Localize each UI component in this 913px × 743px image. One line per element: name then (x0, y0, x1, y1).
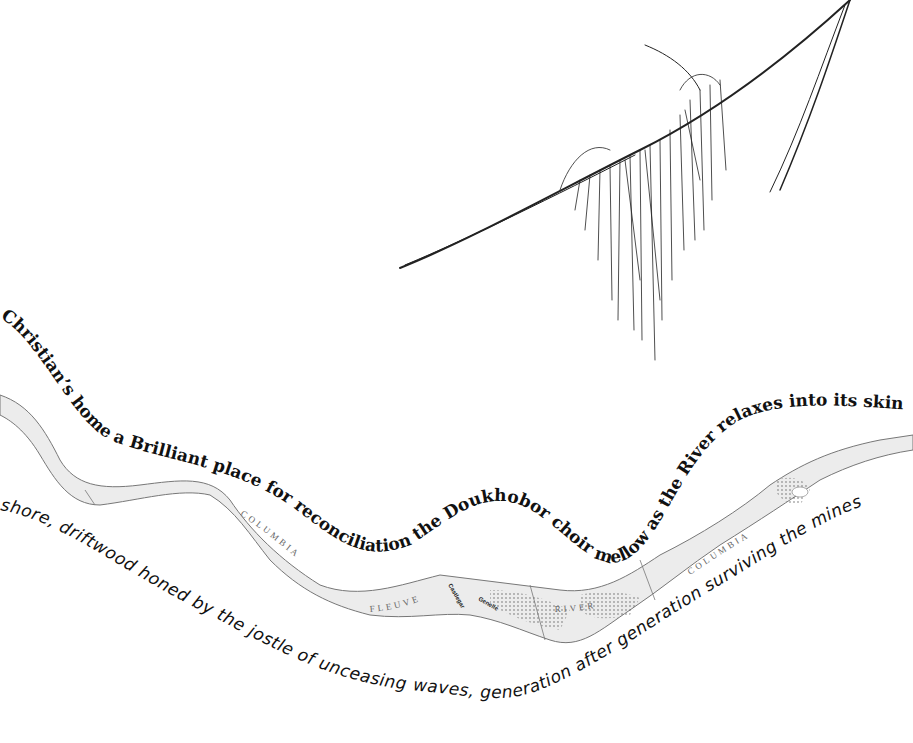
artwork-canvas: COLUMBIA FLEUVE RIVER COLUMBIA Castlegar… (0, 0, 913, 743)
branch-sketch (400, 0, 850, 360)
